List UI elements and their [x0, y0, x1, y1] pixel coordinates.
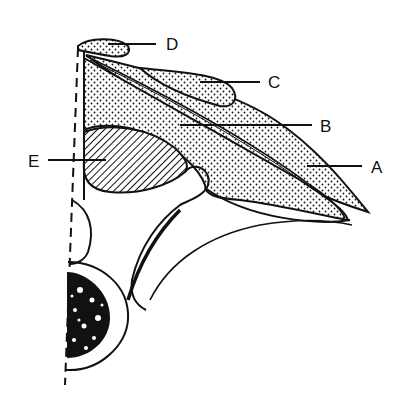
label-d: D: [166, 35, 178, 54]
anatomy-drawing: A B C D E: [0, 0, 407, 400]
diagram-canvas: A B C D E: [0, 0, 407, 400]
label-a: A: [371, 158, 383, 177]
region-d: [78, 39, 129, 56]
label-c: C: [268, 73, 280, 92]
label-b: B: [320, 117, 331, 136]
cancellous-bone: [67, 272, 110, 358]
label-e: E: [28, 152, 39, 171]
